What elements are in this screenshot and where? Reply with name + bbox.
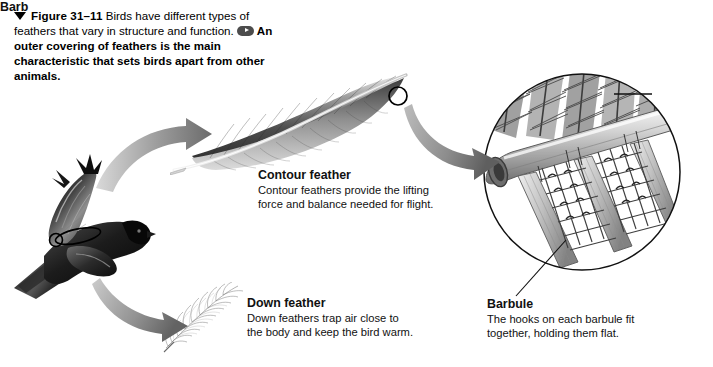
leader-line-barbule — [516, 240, 566, 296]
down-body-line-1: Down feathers trap air close to — [247, 311, 413, 325]
down-feather-body: Down feathers trap air close to the body… — [247, 311, 413, 339]
callout-oval-icon — [50, 224, 102, 247]
figure-number: Figure 31–11 — [31, 9, 102, 22]
contour-feather-body: Contour feathers provide the lifting for… — [258, 183, 433, 211]
barbule-label: Barbule The hooks on each barbule fit to… — [487, 297, 634, 340]
barbule-body-line-2: together, holding them flat. — [487, 326, 634, 340]
contour-feather-illustration — [170, 70, 430, 175]
callout-circle-icon — [389, 87, 407, 105]
down-body-line-2: the body and keep the bird warm. — [247, 325, 413, 339]
figure-caption: Figure 31–11 Birds have different types … — [14, 8, 282, 83]
key-question-icon — [237, 26, 254, 36]
barb-barbule-magnified-illustration — [482, 72, 682, 282]
arrow-bird-to-down — [92, 278, 188, 342]
flying-bird-illustration — [6, 128, 156, 313]
down-triangle-icon — [14, 12, 26, 20]
barbule-body: The hooks on each barbule fit together, … — [487, 312, 634, 340]
figure-31-11: Figure 31–11 Birds have different types … — [0, 0, 713, 367]
barbule-body-line-1: The hooks on each barbule fit — [487, 312, 634, 326]
contour-feather-label: Contour feather Contour feathers provide… — [258, 168, 433, 211]
down-feather-label: Down feather Down feathers trap air clos… — [247, 296, 413, 339]
barbule-title: Barbule — [487, 297, 634, 312]
contour-body-line-2: force and balance needed for flight. — [258, 197, 433, 211]
down-feather-title: Down feather — [247, 296, 413, 311]
contour-feather-title: Contour feather — [258, 168, 433, 183]
contour-body-line-1: Contour feathers provide the lifting — [258, 183, 433, 197]
arrow-bird-to-contour — [96, 118, 212, 192]
down-feather-illustration — [152, 282, 252, 354]
